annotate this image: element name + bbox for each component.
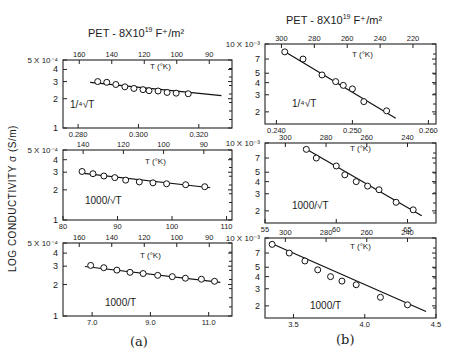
data-point	[342, 172, 348, 178]
y-tick-label: 7	[255, 54, 260, 64]
y-tick-label: 7	[255, 248, 260, 258]
y-tick-label: 3	[53, 77, 58, 87]
data-point	[303, 146, 309, 152]
x-tick-label: 0.300	[129, 130, 148, 139]
data-point	[95, 79, 101, 85]
top-tick-label: 90	[205, 50, 213, 59]
y-tick-label: 4	[53, 248, 58, 258]
x-tick-label: 55	[261, 225, 269, 234]
data-point	[302, 258, 308, 264]
data-point	[202, 184, 208, 190]
data-point	[122, 84, 128, 90]
top-tick-label: 140	[105, 50, 118, 59]
top-tick-label: 300	[279, 228, 292, 237]
x-axis-variable-label: 1/⁴√T	[292, 98, 316, 109]
data-point	[90, 171, 96, 177]
plots: 12345 X 10⁻⁴0.2800.3000.3201601401201009…	[27, 34, 441, 329]
caption-a: (a)	[130, 334, 148, 349]
y-tick-label: 1	[53, 215, 58, 225]
data-point	[353, 282, 359, 288]
top-tick-label: 280	[320, 228, 333, 237]
data-point	[384, 108, 390, 114]
data-point	[79, 168, 85, 174]
data-point	[349, 86, 355, 92]
temperature-axis-label: T (°K)	[350, 242, 371, 251]
y-tick-label: 10 X 10⁻³	[226, 234, 261, 243]
x-tick-label: 11.0	[202, 318, 216, 327]
top-tick-label: 90	[200, 140, 208, 149]
data-point	[140, 87, 146, 93]
caption-b: (b)	[336, 332, 354, 347]
data-point	[198, 276, 204, 282]
x-tick-label: 80	[59, 222, 67, 231]
plot-b1: 2345710 X 10⁻³0.2400.2500.26030028026024…	[226, 34, 438, 135]
data-point	[300, 56, 306, 62]
fit-line	[269, 242, 426, 311]
top-tick-label: 160	[73, 233, 86, 242]
x-axis-variable-label: 1000/√T	[292, 200, 329, 211]
data-point	[340, 82, 346, 88]
x-tick-label: 3.5	[288, 320, 298, 329]
x-tick-label: 60	[332, 225, 340, 234]
data-point	[101, 173, 107, 179]
y-tick-label: 1	[53, 311, 58, 321]
top-tick-label: 120	[138, 50, 151, 59]
y-tick-label: 3	[255, 90, 260, 100]
y-tick-label: 2	[53, 185, 58, 195]
y-tick-label: 5	[255, 167, 260, 177]
y-tick-label: 2	[53, 280, 58, 290]
plot-a3: 12345 X 10⁻⁴7.09.011.016014012010090T (°…	[27, 233, 232, 327]
x-tick-label: 100	[166, 222, 179, 231]
x-tick-label: 4.5	[431, 320, 441, 329]
figure-titles: PET - 8X1019 F⁺/m² PET - 8X1019 F⁺/m²	[88, 13, 382, 39]
x-tick-label: 0.250	[343, 126, 362, 135]
data-point	[313, 155, 319, 161]
y-tick-label: 5 X 10⁻⁴	[27, 56, 58, 65]
data-point	[146, 88, 152, 94]
top-tick-label: 300	[279, 133, 292, 142]
data-point	[182, 275, 188, 281]
x-axis-variable-label: 1000/√T	[85, 195, 122, 206]
plot-a1: 12345 X 10⁻⁴0.2800.3000.3201601401201009…	[27, 50, 232, 139]
top-tick-label: 240	[401, 133, 414, 142]
data-point	[127, 269, 133, 275]
y-tick-label: 4	[255, 177, 260, 187]
temperature-axis-label: T (°K)	[352, 50, 373, 59]
x-tick-label: 0.280	[69, 130, 88, 139]
x-axis-variable-label: 1/⁴√T	[70, 99, 94, 110]
y-tick-label: 5	[255, 68, 260, 78]
y-tick-label: 2	[255, 206, 260, 216]
data-point	[328, 274, 334, 280]
temperature-axis-label: T (°K)	[350, 144, 371, 153]
top-tick-label: 160	[73, 50, 86, 59]
y-tick-label: 3	[255, 189, 260, 199]
y-tick-label: 4	[53, 64, 58, 74]
data-point	[114, 267, 120, 273]
data-point	[164, 181, 170, 187]
y-tick-label: 10 X 10⁻³	[226, 40, 261, 49]
x-tick-label: 0.260	[419, 126, 438, 135]
data-point	[140, 271, 146, 277]
data-point	[333, 79, 339, 85]
data-point	[164, 89, 170, 95]
data-point	[269, 241, 275, 247]
data-point	[377, 294, 383, 300]
top-tick-label: 100	[170, 233, 183, 242]
data-point	[173, 90, 179, 96]
temperature-axis-label: T (°K)	[145, 157, 166, 166]
data-point	[361, 99, 367, 105]
data-point	[104, 79, 110, 85]
top-tick-label: 280	[308, 34, 321, 43]
y-tick-label: 1	[53, 123, 58, 133]
data-point	[101, 265, 107, 271]
x-axis-variable-label: 1000/T	[105, 297, 136, 308]
plot-a2: 12345 X 10⁻⁴809010011014012010090T (°K)1…	[27, 140, 232, 231]
data-point	[155, 272, 161, 278]
x-tick-label: 0.320	[189, 130, 208, 139]
data-point	[155, 88, 161, 94]
top-tick-label: 260	[341, 34, 354, 43]
top-tick-label: 220	[407, 34, 420, 43]
data-point	[112, 175, 118, 181]
data-point	[123, 177, 129, 183]
data-point	[405, 302, 411, 308]
